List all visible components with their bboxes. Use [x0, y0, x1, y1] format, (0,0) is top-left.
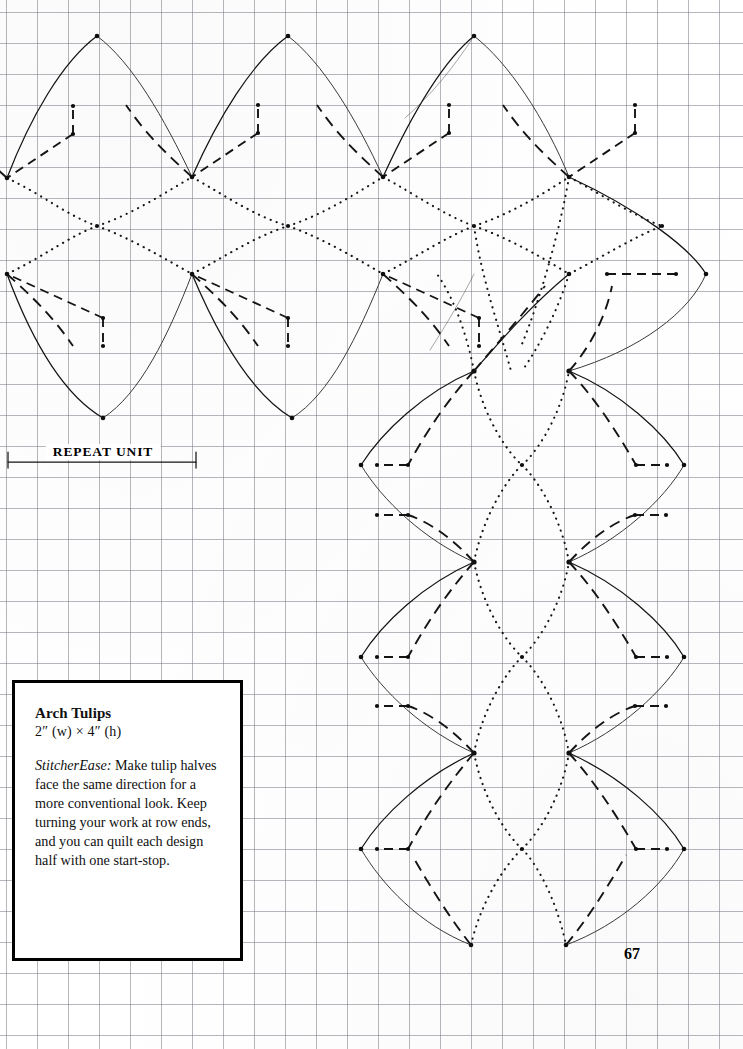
repeat-unit-label: REPEAT UNIT	[46, 444, 161, 460]
repeat-unit-marker: REPEAT UNIT	[8, 443, 198, 469]
stitcher-ease-label: StitcherEase:	[35, 757, 111, 773]
pattern-page: .solid { fill:none; stroke:#141414; stro…	[0, 0, 743, 1049]
tulip-motifs-middle-left	[5, 175, 572, 348]
tulip-motifs-top	[0, 103, 637, 178]
dotted-lattice-right-column	[437, 177, 569, 945]
arch-row-top	[7, 34, 569, 178]
arch-row-middle	[7, 274, 383, 420]
page-number: 67	[624, 945, 640, 963]
stitcher-ease-text: Make tulip halves face the same directio…	[35, 757, 217, 867]
caption-box: Arch Tulips 2″ (w) × 4″ (h) StitcherEase…	[12, 680, 243, 961]
pattern-title: Arch Tulips	[35, 705, 220, 722]
pattern-continuation-strokes	[405, 36, 474, 350]
caption-content: Arch Tulips 2″ (w) × 4″ (h) StitcherEase…	[15, 683, 240, 870]
pattern-dimensions: 2″ (w) × 4″ (h)	[35, 724, 220, 740]
dotted-lattice-upper	[7, 177, 664, 274]
stitcher-ease-note: StitcherEase: Make tulip halves face the…	[35, 756, 220, 869]
arch-column-right	[359, 177, 709, 947]
